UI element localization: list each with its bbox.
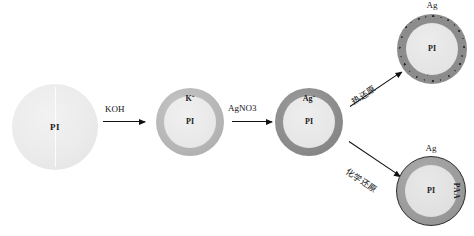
particle-ag-paa-shell: PI Ag PAA xyxy=(396,156,466,226)
ag-top-label: Ag xyxy=(426,144,437,153)
paa-shell-label: PAA xyxy=(452,183,460,199)
k-ion-shell-label: K+ xyxy=(185,94,194,103)
arrow-agno3-label: AgNO3 xyxy=(228,103,257,113)
particle-ag-granular-shell: PI Ag xyxy=(397,14,467,84)
ag-granular-shell-core: PI xyxy=(406,23,458,75)
arrow-agno3 xyxy=(232,121,272,122)
ag-top-label: Ag xyxy=(427,1,438,10)
particle-ag-ion-shell: PI Ag+ xyxy=(275,88,343,156)
arrow-koh-label: KOH xyxy=(105,104,125,114)
arrow-chemical-reduction-label: 化学还原 xyxy=(344,165,381,195)
reaction-scheme-diagram: PI KOH PI K+ AgNO3 PI Ag+ 热还原 化学还原 PI Ag… xyxy=(0,0,474,236)
pi-core-label: PI xyxy=(50,123,60,132)
particle-pi-sphere: PI xyxy=(12,84,98,170)
ag-paa-shell-core: PI xyxy=(405,165,457,217)
ag-ion-shell-core: PI xyxy=(283,96,335,148)
pi-core-label: PI xyxy=(428,45,436,53)
koh-text: KOH xyxy=(105,104,125,114)
arrow-thermal-reduction-label: 热还原 xyxy=(349,82,378,107)
arrow-koh xyxy=(103,121,145,122)
pi-core-label: PI xyxy=(427,187,435,195)
ag-text: Ag xyxy=(303,94,313,103)
k-charge: + xyxy=(192,93,195,98)
particle-k-shell: PI K+ xyxy=(156,88,224,156)
pi-core-label: PI xyxy=(186,118,194,126)
agno3-subscript: 3 xyxy=(252,103,257,113)
agno3-text: AgNO xyxy=(228,103,252,113)
pi-core-label: PI xyxy=(305,118,313,126)
ag-charge: + xyxy=(312,93,315,98)
ag-ion-shell-label: Ag+ xyxy=(303,94,316,103)
k-shell-core: PI xyxy=(164,96,216,148)
